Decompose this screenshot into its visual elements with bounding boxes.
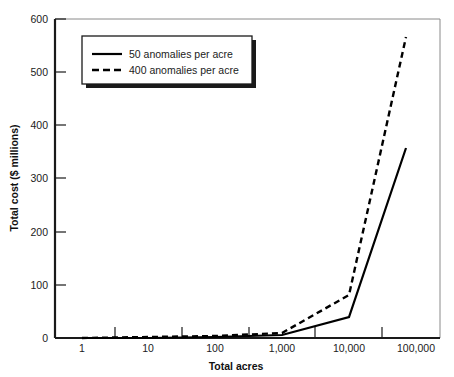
y-tick-label-400: 400 [30, 119, 48, 131]
y-axis-title: Total cost ($ millions) [8, 124, 20, 231]
y-tick-label-300: 300 [30, 172, 48, 184]
x-tick-label-100000: 100,000 [397, 342, 435, 354]
x-tick-label-100: 100 [206, 342, 224, 354]
y-tick-label-100: 100 [30, 279, 48, 291]
x-axis-title: Total acres [209, 360, 264, 372]
legend-label-50-anomalies: 50 anomalies per acre [129, 48, 233, 60]
legend-box [82, 36, 252, 84]
y-tick-label-200: 200 [30, 226, 48, 238]
legend-label-400-anomalies: 400 anomalies per acre [129, 64, 239, 76]
chart-canvas: 600 500 400 300 200 100 0 1 10 100 1,000… [0, 0, 454, 377]
x-tick-label-10: 10 [142, 342, 154, 354]
y-tick-label-0: 0 [42, 332, 48, 344]
y-tick-label-600: 600 [30, 13, 48, 25]
x-tick-label-1: 1 [79, 342, 85, 354]
y-tick-label-500: 500 [30, 66, 48, 78]
line-chart: 600 500 400 300 200 100 0 1 10 100 1,000… [0, 0, 454, 377]
x-tick-label-10000: 10,000 [333, 342, 365, 354]
x-tick-label-1000: 1,000 [269, 342, 295, 354]
